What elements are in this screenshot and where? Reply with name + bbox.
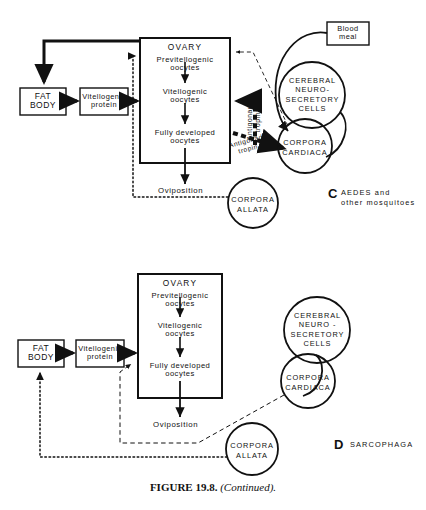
ovary-stage1-d: Previtellogenic oocytes [132, 292, 228, 308]
cerebral-line1-c: CEREBRAL [280, 76, 345, 85]
ovary-stage3-c: Fully developed oocytes [136, 129, 234, 145]
ovary-stage2-c: Vitellogenic oocytes [140, 88, 230, 104]
cc-line2-c: CARDIACA [274, 148, 336, 158]
ovary-stage2-line2-c: oocytes [140, 96, 230, 104]
blood-meal-label-c: Blood meal [327, 25, 369, 41]
panel-c-graphics [20, 22, 369, 228]
diagram-vector-layer [0, 0, 426, 510]
cerebral-circle-label-c: CEREBRAL NEURO- SECRETORY CELLS [280, 76, 345, 113]
vitellogenic-protein-label-d: Vitellogenic protein [75, 345, 125, 361]
corpora-allata-dotted-d [40, 372, 227, 457]
figure-caption: FIGURE 19.8. (Continued). [0, 481, 426, 493]
ca-line2-d: ALLATA [221, 451, 283, 461]
panel-name-d-line1: SARCOPHAGA [350, 440, 413, 450]
cerebral-line3-d: SECRETORY [285, 330, 350, 339]
panel-name-d: SARCOPHAGA [350, 440, 413, 450]
corpora-allata-label-c: CORPORA ALLATA [222, 195, 284, 214]
ovary-stage1-line2-d: oocytes [132, 300, 228, 308]
fat-body-line2-c: BODY [20, 101, 66, 110]
vit-protein-line2-c: protein [79, 101, 129, 109]
panel-name-c-line2: other mosquitoes [341, 198, 415, 208]
ovary-title-d: OVARY [138, 279, 222, 288]
figure-caption-number: FIGURE 19.8. [150, 481, 218, 493]
ovary-stage2-line2-d: oocytes [136, 330, 224, 338]
ca-line2-c: ALLATA [222, 205, 284, 215]
corpora-cardiaca-label-d: CORPORA CARDIACA [277, 373, 339, 392]
cc-line1-d: CORPORA [277, 373, 339, 383]
corpora-allata-label-d: CORPORA ALLATA [221, 441, 283, 460]
blood-meal-line2-c: meal [327, 33, 369, 41]
fat-body-label-d: FAT BODY [18, 344, 64, 362]
ovary-to-fatbody-thick-c [44, 41, 140, 82]
figure-canvas: FAT BODY Vitellogenic protein Blood meal… [0, 0, 426, 510]
vit-protein-line2-d: protein [75, 353, 125, 361]
vitellogenic-protein-label-c: Vitellogenic protein [79, 93, 129, 109]
ovary-stage3-line2-c: oocytes [136, 137, 234, 145]
cerebral-line1-d: CEREBRAL [285, 311, 350, 320]
cerebral-line3-c: SECRETORY [280, 95, 345, 104]
panel-letter-d: D [334, 437, 343, 452]
corpora-allata-dotted-c [133, 56, 228, 197]
corpora-cardiaca-label-c: CORPORA CARDIACA [274, 138, 336, 157]
cc-line2-d: CARDIACA [277, 383, 339, 393]
cerebral-line2-d: NEURO - [285, 320, 350, 329]
ca-line1-d: CORPORA [221, 441, 283, 451]
ca-line1-c: CORPORA [222, 195, 284, 205]
fat-body-label-c: FAT BODY [20, 92, 66, 110]
panel-name-c: AEDES and other mosquitoes [341, 188, 415, 208]
panel-name-c-line1: AEDES and [341, 188, 415, 198]
ovary-stage1-line2-c: oocytes [136, 64, 234, 72]
ovary-title-c: OVARY [140, 43, 230, 52]
oviposition-label-c: Oviposition [158, 186, 203, 195]
oviposition-label-d: Oviposition [153, 420, 198, 429]
cc-line1-c: CORPORA [274, 138, 336, 148]
ovary-stage2-d: Vitellogenic oocytes [136, 322, 224, 338]
ovary-stage3-line2-d: oocytes [132, 370, 228, 378]
fat-body-line2-d: BODY [18, 353, 64, 362]
cerebral-line4-c: CELLS [280, 104, 345, 113]
ovary-stage1-c: Previtellogenic oocytes [136, 56, 234, 72]
ovary-stage3-d: Fully developed oocytes [132, 362, 228, 378]
figure-caption-continued: (Continued). [220, 481, 276, 493]
cerebral-circle-label-d: CEREBRAL NEURO - SECRETORY CELLS [285, 311, 350, 348]
antigon-v-line1-c: Antigonado- [246, 98, 254, 140]
cerebral-line2-c: NEURO- [280, 85, 345, 94]
panel-letter-c: C [328, 186, 337, 201]
cerebral-line4-d: CELLS [285, 339, 350, 348]
